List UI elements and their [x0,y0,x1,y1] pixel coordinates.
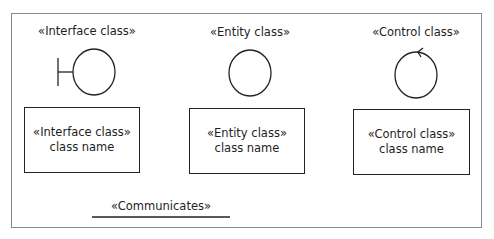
control-class-box: «Control class» class name [353,109,470,175]
entity-box-stereotype: «Entity class» [207,126,287,141]
interface-box-stereotype: «Interface class» [33,125,131,140]
entity-icon [229,50,271,96]
interface-class-box: «Interface class» class name [24,107,140,173]
control-icon [395,48,437,98]
entity-box-class-name: class name [215,141,280,156]
control-box-stereotype: «Control class» [368,127,456,142]
boundary-icon [58,49,115,95]
interface-box-class-name: class name [50,140,115,155]
control-box-class-name: class name [379,142,444,157]
entity-class-box: «Entity class» class name [189,108,305,174]
communicates-label: «Communicates» [111,199,211,213]
